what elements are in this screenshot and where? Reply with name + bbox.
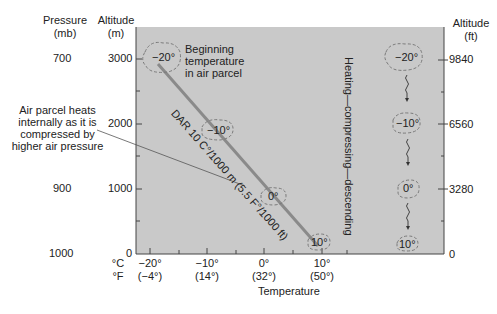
parcel-label: 10°: [311, 236, 328, 248]
pressure-tick: 900: [53, 182, 71, 194]
x-tick: 0°(32°): [249, 257, 279, 283]
altitude-ft-tick: 3280: [449, 183, 473, 195]
altitude-m-tick: 1000: [108, 182, 132, 194]
altitude-ft-tick: 0: [449, 248, 455, 260]
heats-annotation: Air parcel heats internally as it is com…: [10, 104, 105, 152]
altitude-ft-tick: 6560: [449, 118, 473, 130]
parcel-label: −10°: [207, 124, 230, 136]
x-tick: −20°(−4°): [135, 257, 165, 283]
parcel-label: −20°: [395, 51, 418, 63]
altitude-m-header: Altitude(m): [95, 14, 137, 40]
pressure-tick: 700: [53, 52, 71, 64]
beginning-annotation: Beginning temperature in air parcel: [185, 43, 244, 79]
x-units: °C°F: [108, 257, 128, 283]
parcel-label: 0°: [403, 182, 414, 194]
process-label: Heating—compressing—descending: [343, 57, 355, 236]
parcel-label: 0°: [268, 190, 279, 202]
altitude-m-tick: 2000: [108, 117, 132, 129]
pressure-tick: 1000: [49, 247, 73, 259]
altitude-ft-tick: 9840: [449, 53, 473, 65]
altitude-m-tick: 3000: [108, 52, 132, 64]
parcel-label: −10°: [396, 117, 419, 129]
x-axis-title: Temperature: [258, 285, 320, 297]
x-tick: 10°(50°): [307, 257, 337, 283]
x-tick: −10°(14°): [192, 257, 222, 283]
parcel-label: 10°: [399, 238, 416, 250]
altitude-ft-header: Altitude(ft): [446, 17, 496, 43]
pressure-header: Pressure(mb): [40, 14, 90, 40]
parcel-label: −20°: [152, 51, 175, 63]
